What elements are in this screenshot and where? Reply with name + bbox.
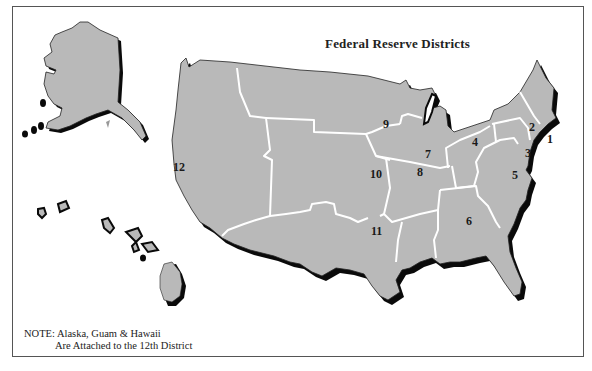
note-line-1: NOTE: Alaska, Guam & Hawaii	[24, 328, 192, 340]
stray-mark	[106, 120, 110, 128]
us-federal-reserve-map: 1 2 3 4 5 6 7 8 9 10 11 12	[0, 0, 592, 371]
district-label-2: 2	[529, 120, 535, 134]
district-label-4: 4	[472, 135, 478, 149]
alaska-inset	[22, 22, 149, 143]
district-label-1: 1	[547, 132, 553, 146]
note-line-2: Are Attached to the 12th District	[24, 340, 192, 352]
district-label-10: 10	[370, 167, 382, 181]
district-label-6: 6	[466, 214, 472, 228]
contiguous-us	[172, 58, 560, 305]
district-label-3: 3	[525, 146, 531, 160]
map-title: Federal Reserve Districts	[325, 36, 470, 52]
district-label-12: 12	[173, 160, 185, 174]
district-label-11: 11	[371, 224, 382, 238]
district-label-7: 7	[425, 147, 431, 161]
map-note: NOTE: Alaska, Guam & Hawaii Are Attached…	[24, 328, 192, 352]
district-label-8: 8	[417, 165, 423, 179]
district-label-9: 9	[383, 117, 389, 131]
district-label-5: 5	[512, 168, 518, 182]
hawaii-inset	[38, 201, 186, 306]
